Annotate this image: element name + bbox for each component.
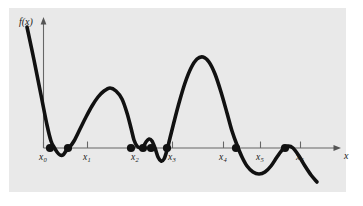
x-tick-label-x2: x2 (131, 153, 138, 163)
x-tick-label-x4: x4 (219, 153, 226, 163)
root-marker (64, 144, 72, 152)
x-tick-label-x1: x1 (83, 153, 90, 163)
x-tick-label-x5: x5 (256, 153, 263, 163)
x-axis-arrow-icon (334, 145, 342, 151)
root-marker (46, 144, 54, 152)
root-marker (281, 144, 289, 152)
root-marker (147, 144, 155, 152)
root-marker (232, 144, 240, 152)
root-marker (139, 144, 147, 152)
x-axis-ticks (44, 142, 301, 149)
root-marker (163, 144, 171, 152)
x-tick-label-x6: x6 (296, 153, 303, 163)
y-axis (41, 17, 47, 148)
plot-canvas (0, 0, 363, 206)
x-tick-label-x3: x3 (168, 153, 175, 163)
y-axis-arrow-icon (41, 17, 47, 25)
figure-root: f(x) x x0x1x2x3x4x5x6 (0, 0, 363, 206)
x-axis-label: x (344, 151, 348, 161)
y-axis-label: f(x) (19, 17, 33, 27)
root-marker (127, 144, 135, 152)
x-tick-label-x0: x0 (39, 153, 46, 163)
